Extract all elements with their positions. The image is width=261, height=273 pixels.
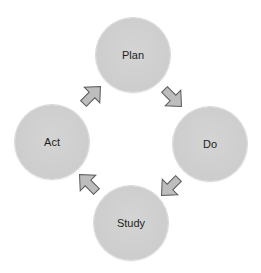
arrow-down-left-icon <box>157 174 183 200</box>
node-do: Do <box>173 107 247 181</box>
node-label-do: Do <box>203 138 217 150</box>
arrow-up-right-icon <box>79 82 105 108</box>
node-act: Act <box>15 105 89 179</box>
arrow-down-right-icon <box>160 85 186 111</box>
node-label-act: Act <box>44 136 60 148</box>
arrow-up-left-icon <box>75 170 101 196</box>
node-plan: Plan <box>96 18 170 92</box>
node-label-plan: Plan <box>122 49 144 61</box>
node-label-study: Study <box>117 217 145 229</box>
pdsa-cycle-diagram: Plan Do Study Act <box>0 0 261 273</box>
